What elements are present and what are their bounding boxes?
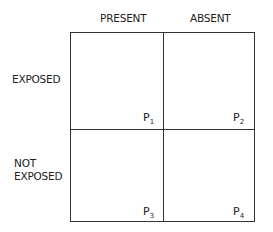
row-header-exposed: EXPOSED — [12, 73, 60, 86]
cell-p3: P3 — [143, 205, 154, 220]
row-header-not-exposed-line1: NOT — [14, 157, 36, 170]
column-header-absent: ABSENT — [190, 12, 231, 25]
cell-p1: P1 — [143, 111, 154, 126]
row-header-not-exposed-line2: EXPOSED — [14, 170, 62, 183]
column-header-present: PRESENT — [100, 12, 146, 25]
cell-p2: P2 — [233, 111, 244, 126]
vertical-divider — [163, 33, 164, 221]
contingency-table-grid: P1 P2 P3 P4 — [70, 32, 255, 222]
horizontal-divider — [71, 129, 254, 130]
cell-p4: P4 — [233, 205, 244, 220]
